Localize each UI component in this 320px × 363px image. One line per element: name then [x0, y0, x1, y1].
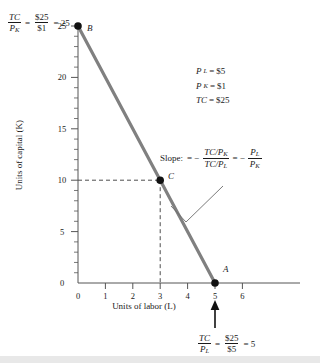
- y-axis-minor-ticks: [74, 36, 78, 272]
- slope-ratio-denominator: TC/PL: [203, 158, 230, 170]
- y-axis-title: Units of capital (K): [14, 110, 24, 200]
- y-intercept-ratio-denominator-subscript: K: [15, 27, 19, 34]
- x-tick-label-2: 2: [125, 291, 141, 301]
- slope-ratio-denominator-tc: TC: [205, 159, 216, 169]
- slope-price-ratio: PL PK: [248, 147, 262, 170]
- price-subscript-labor: L: [204, 66, 208, 77]
- data-point-a: [211, 279, 219, 287]
- y-intercept-ratio-denominator: PK: [8, 22, 22, 34]
- x-intercept-values: $25 $5: [223, 333, 241, 354]
- slope-equals-2: =: [233, 153, 238, 163]
- y-intercept-ratio-numerator: TC: [7, 12, 22, 22]
- y-intercept-result-equals: =: [54, 18, 59, 28]
- y-tick-label-20: 20: [54, 72, 70, 82]
- y-intercept-value-numerator: $25: [33, 12, 51, 22]
- slope-price-ratio-denominator-subscript: K: [255, 162, 259, 169]
- price-row-capital: PK = $1: [196, 79, 230, 94]
- x-intercept-result: 5: [251, 339, 256, 349]
- price-value-labor: $5: [216, 64, 225, 79]
- x-intercept-ratio-denominator-subscript: L: [205, 348, 209, 355]
- x-intercept-ratio: TC PL: [197, 333, 212, 355]
- x-intercept-equals: =: [215, 339, 220, 349]
- x-tick-label-5: 5: [207, 291, 223, 301]
- y-tick-label-5: 5: [54, 227, 70, 237]
- y-intercept-ratio: TC PK: [7, 12, 22, 34]
- price-row-labor: PL = $5: [196, 64, 230, 79]
- data-point-b: [74, 22, 82, 30]
- point-label-b: B: [87, 23, 93, 33]
- slope-ratio-numerator-subscript: K: [223, 150, 227, 157]
- slope-equals: =: [187, 153, 192, 163]
- y-intercept-formula: TC PK = $25 $1 = 25: [6, 12, 70, 34]
- slope-minus-sign-1: −: [194, 153, 199, 163]
- price-equals-labor: =: [209, 64, 214, 79]
- slope-ratio-denominator-subscript: L: [224, 162, 228, 169]
- price-symbol-capital: P: [196, 79, 202, 94]
- slope-ratio-of-intercepts: TC/PK TC/PL: [202, 147, 229, 170]
- slope-price-ratio-numerator-subscript: L: [256, 150, 260, 157]
- y-tick-label-10: 10: [54, 175, 70, 185]
- x-intercept-ratio-numerator: TC: [197, 333, 212, 343]
- point-label-c: C: [168, 171, 174, 181]
- price-symbol-total-cost: TC: [196, 93, 207, 108]
- y-tick-label-15: 15: [54, 124, 70, 134]
- isocost-figure: 25 20 15 10 5 0 0 1 2 3 4 5 6 Units of c…: [0, 0, 320, 363]
- x-tick-label-1: 1: [97, 291, 113, 301]
- x-intercept-ratio-denominator: PL: [198, 343, 211, 355]
- price-row-total-cost: TC = $25: [196, 93, 230, 108]
- slope-label: Slope:: [160, 153, 183, 163]
- point-label-a: A: [223, 264, 229, 274]
- x-axis-title: Units of labor (L): [84, 301, 204, 311]
- slope-price-ratio-numerator: PL: [248, 147, 261, 158]
- slope-price-ratio-denominator: PK: [248, 158, 262, 170]
- price-parameters-box: PL = $5 PK = $1 TC = $25: [196, 64, 230, 108]
- bottom-divider: [0, 356, 320, 363]
- guide-lines-point-c: [78, 180, 160, 283]
- slope-minus-sign-2: −: [240, 153, 245, 163]
- price-subscript-capital: K: [204, 81, 208, 92]
- price-symbol-labor: P: [196, 64, 202, 79]
- price-equals-total-cost: =: [209, 93, 214, 108]
- x-axis-title-text: Units of labor (L): [112, 301, 176, 311]
- x-tick-label-3: 3: [152, 291, 168, 301]
- price-equals-capital: =: [210, 79, 215, 94]
- x-intercept-arrow: [211, 300, 220, 328]
- y-intercept-value-denominator: $1: [35, 22, 48, 33]
- y-intercept-result: 25: [61, 18, 70, 28]
- x-intercept-value-numerator: $25: [223, 333, 241, 343]
- x-tick-label-0: 0: [70, 291, 86, 301]
- x-tick-label-4: 4: [180, 291, 196, 301]
- x-intercept-formula: TC PL = $25 $5 = 5: [196, 333, 255, 355]
- y-intercept-equals: =: [25, 18, 30, 28]
- data-point-c: [156, 176, 164, 184]
- y-tick-label-0: 0: [54, 278, 70, 288]
- slope-ratio-numerator-tc: TC: [204, 147, 215, 157]
- y-axis-title-text: Units of capital (K): [14, 120, 24, 190]
- slope-annotation: Slope: = − TC/PK TC/PL = − PL PK: [160, 147, 263, 170]
- x-intercept-result-equals: =: [244, 339, 249, 349]
- price-value-total-cost: $25: [216, 93, 230, 108]
- slope-ratio-numerator: TC/PK: [202, 147, 229, 158]
- x-tick-label-6: 6: [234, 291, 250, 301]
- price-value-capital: $1: [217, 79, 226, 94]
- x-intercept-value-denominator: $5: [225, 343, 238, 354]
- y-intercept-values: $25 $1: [33, 12, 51, 33]
- x-axis-major-ticks: [105, 283, 242, 289]
